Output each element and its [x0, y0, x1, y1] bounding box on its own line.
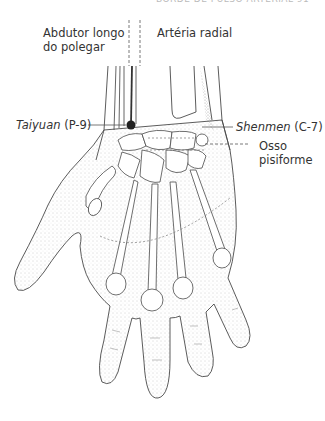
dashed-guide-lines [129, 20, 140, 66]
label-shenmen: Shenmen (C-7) [236, 120, 323, 134]
taiyuan-name: Taiyuan [16, 118, 61, 132]
shenmen-code: (C-7) [294, 120, 322, 134]
taiyuan-point-marker [127, 121, 136, 130]
shenmen-name: Shenmen [236, 120, 291, 134]
hand-anatomy-illustration [0, 0, 325, 421]
label-abductor-pollicis-longus: Abdutor longo do polegar [43, 26, 125, 54]
label-radial-artery: Artéria radial [157, 26, 232, 40]
label-taiyuan: Taiyuan (P-9) [16, 118, 91, 132]
taiyuan-code: (P-9) [64, 118, 91, 132]
label-pisiform-bone: Osso pisiforme [259, 139, 313, 167]
